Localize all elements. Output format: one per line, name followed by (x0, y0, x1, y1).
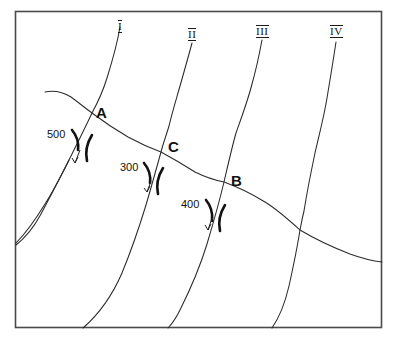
fault-label-iii-text: III (256, 25, 269, 38)
fault-label-iii: III (256, 24, 269, 39)
fault-label-i: I (118, 19, 122, 34)
figure-border (16, 12, 382, 328)
measure-label-400: 400 (181, 198, 199, 210)
fault-label-i-text: I (118, 20, 122, 33)
figure-root: I II III IV A C B 500 300 400 (0, 0, 397, 342)
fault-label-iv-text: IV (330, 25, 343, 38)
fault-label-iv: IV (330, 24, 343, 39)
measure-label-300: 300 (120, 161, 138, 173)
point-label-c: C (168, 138, 179, 155)
fault-label-ii: II (188, 27, 196, 42)
diagram-canvas (0, 0, 397, 342)
point-label-a: A (96, 104, 107, 121)
fault-label-ii-text: II (188, 28, 196, 41)
point-label-b: B (231, 172, 242, 189)
measure-label-500: 500 (47, 128, 65, 140)
